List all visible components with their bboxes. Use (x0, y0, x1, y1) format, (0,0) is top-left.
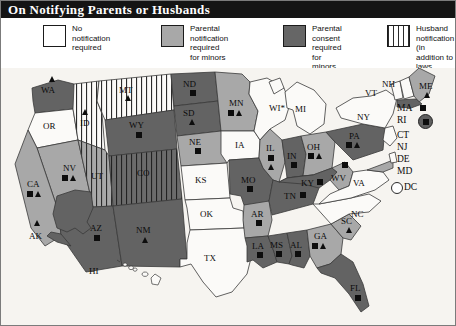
legend-label-parental-notification: Parental notification required for minor… (190, 24, 228, 62)
circle-marker-DC (391, 182, 403, 194)
small-state-label-RI: RI (397, 115, 407, 125)
legend-swatch-husband-notification (387, 25, 410, 47)
us-map-svg (1, 68, 456, 326)
state-NJ (383, 126, 397, 146)
small-state-markers-MA (420, 105, 426, 111)
state-NM (113, 199, 187, 267)
state-SD (174, 101, 221, 136)
state-AR (243, 201, 272, 238)
legend-label-parental-consent: Parental consent required for minors (312, 24, 342, 72)
small-state-label-NJ: NJ (397, 142, 408, 152)
state-PA (326, 124, 385, 160)
small-state-label-MA: MA (397, 103, 412, 113)
state-NY (336, 90, 397, 128)
state-OK (185, 198, 244, 230)
small-state-label-CT: CT (397, 130, 409, 140)
legend-swatch-parental-consent (283, 25, 306, 47)
title-bar: On Notifying Parents or Husbands (1, 1, 456, 18)
small-state-label-DE: DE (397, 154, 410, 164)
legend-swatch-parental-notification (161, 25, 184, 47)
us-map: WA OR ID MT WY NV CA UT CO AZ NM ND SD N… (1, 68, 456, 326)
legend-swatch-no-notification (43, 25, 66, 47)
page-title: On Notifying Parents or Husbands (8, 2, 210, 18)
state-KS (181, 163, 230, 200)
state-TX (180, 228, 253, 297)
circle-marker-RI (418, 114, 433, 129)
state-ND (171, 72, 218, 106)
legend-label-no-notification: No notification required (72, 24, 110, 53)
map-figure: On Notifying Parents or Husbands No noti… (0, 0, 456, 326)
state-CO (109, 149, 182, 206)
state-WA (32, 80, 75, 113)
legend: No notification required Parental notifi… (1, 18, 456, 68)
state-AL (287, 230, 310, 268)
small-state-label-DC: DC (404, 182, 417, 192)
state-MD (367, 160, 393, 172)
small-state-label-MD: MD (397, 166, 412, 176)
state-MN (215, 72, 258, 131)
state-ME (409, 68, 435, 102)
